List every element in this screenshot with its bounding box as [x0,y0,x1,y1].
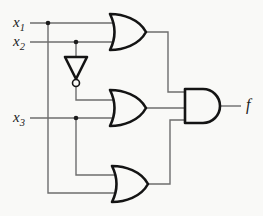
junction-dot-x3 [74,116,79,121]
output-label-f: f [246,96,253,114]
circuit-diagram: x1 x2 x3 f [0,0,263,216]
input-label-x3: x3 [12,109,25,128]
or-gate-middle [110,90,146,126]
not-gate-bubble-icon [73,80,80,87]
and-gate [185,89,220,123]
input-label-x1: x1 [12,14,25,33]
or-gate-bottom [112,166,148,202]
wire-or-top-to-and [144,32,185,92]
or-gate-top [110,14,146,50]
circuit-svg: x1 x2 x3 f [0,0,263,216]
wire-or-bottom-to-and [146,120,185,184]
junction-dot-x2 [74,40,79,45]
not-gate [65,57,87,79]
junction-dot-x1 [46,21,51,26]
input-label-x2: x2 [12,33,26,52]
